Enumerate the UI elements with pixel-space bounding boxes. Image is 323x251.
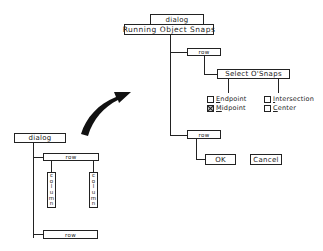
center-checkbox[interactable]	[264, 105, 271, 112]
center-label: Center	[273, 104, 296, 112]
connector	[170, 135, 188, 136]
connector	[204, 56, 205, 75]
endpoint-label: Endpoint	[216, 95, 247, 103]
connector	[204, 74, 218, 75]
row-node: row	[43, 153, 99, 161]
row-node: row	[187, 48, 221, 56]
dialog-title-node: Running Object Snaps	[124, 24, 214, 35]
group-node: Select O'Snaps	[217, 69, 290, 79]
cancel-button[interactable]: Cancel	[250, 154, 282, 165]
endpoint-checkbox[interactable]	[207, 96, 214, 103]
connector	[228, 79, 229, 93]
midpoint-checkbox[interactable]	[207, 105, 214, 112]
row-node: row	[187, 130, 221, 139]
connector	[170, 52, 188, 53]
row-node: row	[43, 230, 98, 239]
column-node: column	[89, 172, 98, 208]
midpoint-label: Midpoint	[216, 104, 246, 112]
connector	[170, 35, 171, 136]
intersection-checkbox[interactable]	[264, 96, 271, 103]
connector	[278, 79, 279, 93]
connector	[196, 139, 197, 160]
intersection-label: Intersection	[273, 95, 314, 103]
ok-button[interactable]: OK	[205, 154, 236, 165]
transform-arrow-icon	[0, 0, 323, 251]
column-node: column	[47, 172, 56, 208]
dialog-node: dialog	[14, 133, 66, 143]
